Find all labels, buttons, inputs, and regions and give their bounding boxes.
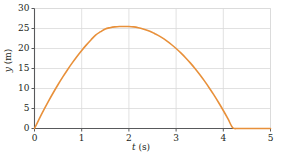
y-tick-label: 25 bbox=[18, 24, 29, 33]
y-axis-title: y (m) bbox=[4, 39, 13, 83]
y-axis-unit: (m) bbox=[3, 49, 13, 65]
y-tick-label: 20 bbox=[18, 44, 29, 53]
y-tick-label: 0 bbox=[24, 124, 30, 133]
x-tick-label: 4 bbox=[213, 134, 233, 143]
gridlines bbox=[35, 9, 271, 129]
x-axis-title: t (s) bbox=[0, 143, 282, 152]
projectile-trajectory-chart: 051015202530 012345 y (m) t (s) bbox=[0, 0, 282, 161]
x-axis-variable: t bbox=[132, 142, 136, 152]
series-line bbox=[35, 26, 271, 128]
data-series bbox=[35, 26, 271, 128]
x-tick-label: 3 bbox=[166, 134, 186, 143]
y-tick-label: 5 bbox=[24, 104, 30, 113]
y-tick-label: 15 bbox=[18, 64, 29, 73]
y-axis-variable: y bbox=[3, 67, 13, 72]
x-tick-label: 5 bbox=[261, 134, 281, 143]
x-tick-label: 0 bbox=[25, 134, 45, 143]
x-axis-unit: (s) bbox=[138, 142, 150, 152]
x-tick-label: 1 bbox=[72, 134, 92, 143]
y-tick-label: 30 bbox=[18, 4, 29, 13]
y-tick-label: 10 bbox=[18, 84, 29, 93]
